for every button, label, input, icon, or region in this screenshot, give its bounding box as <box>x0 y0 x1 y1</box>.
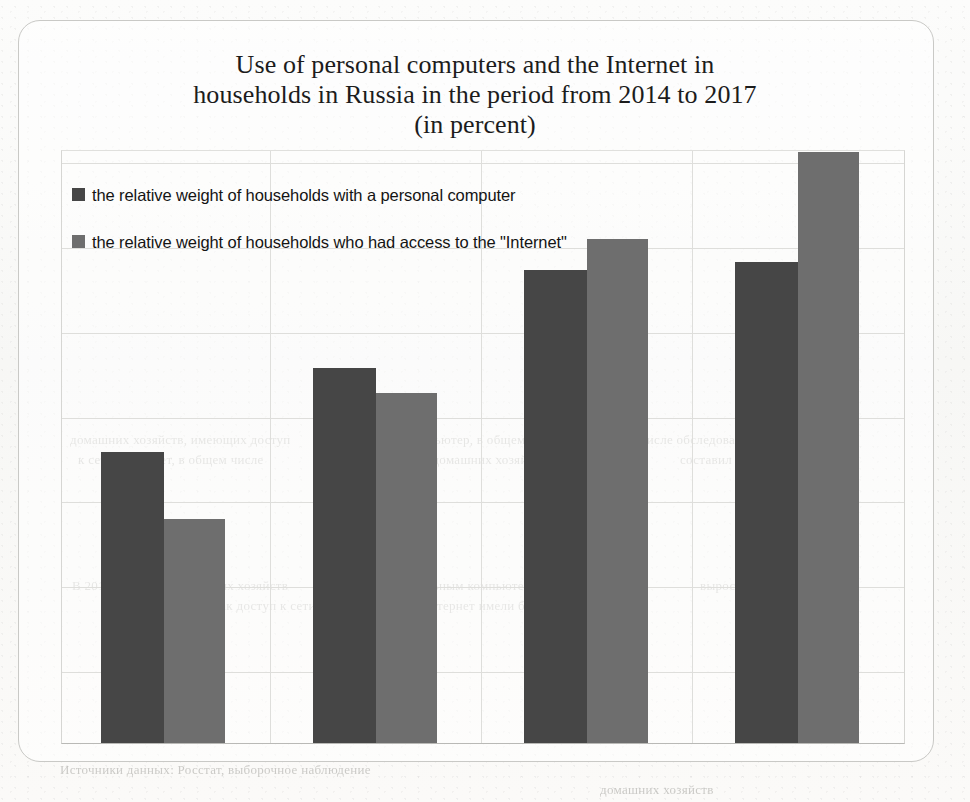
chart-title: Use of personal computers and the Intern… <box>95 50 855 140</box>
legend-item-label: the relative weight of households who ha… <box>92 232 567 253</box>
bar-internet-2015[interactable] <box>376 393 437 743</box>
legend-item-internet-access[interactable]: the relative weight of households who ha… <box>72 232 592 253</box>
bar-chart: Use of personal computers and the Intern… <box>0 0 970 802</box>
chart-title-line-2: households in Russia in the period from … <box>95 80 855 110</box>
bar-pc-2014[interactable] <box>101 452 164 743</box>
bar-pc-2015[interactable] <box>313 368 376 743</box>
bar-pc-2017[interactable] <box>735 262 798 743</box>
filled-square-icon <box>72 235 85 248</box>
bar-internet-2014[interactable] <box>164 519 225 743</box>
bar-internet-2016[interactable] <box>587 239 648 743</box>
bar-pc-2016[interactable] <box>524 270 587 743</box>
chart-legend: the relative weight of households with a… <box>72 185 592 279</box>
chart-title-line-3: (in percent) <box>95 110 855 140</box>
chart-title-line-1: Use of personal computers and the Intern… <box>95 50 855 80</box>
bar-internet-2017[interactable] <box>798 152 859 743</box>
legend-item-personal-computer[interactable]: the relative weight of households with a… <box>72 185 592 206</box>
legend-item-label: the relative weight of households with a… <box>92 185 515 206</box>
filled-square-icon <box>72 188 85 201</box>
